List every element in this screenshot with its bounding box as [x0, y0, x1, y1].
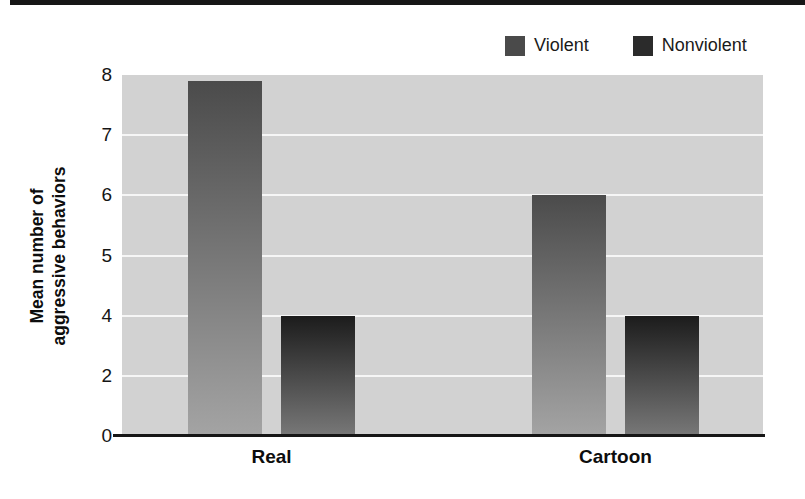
nonviolent-swatch-icon	[633, 36, 653, 56]
bar-cartoon-nonviolent	[625, 316, 699, 436]
y-axis-title-line1: Mean number of	[27, 167, 49, 346]
legend-item-nonviolent: Nonviolent	[633, 35, 747, 56]
violent-swatch-icon	[505, 36, 525, 56]
chart-legend: Violent Nonviolent	[505, 35, 747, 56]
bar-real-violent	[188, 81, 262, 436]
x-category-label-real: Real	[251, 446, 291, 468]
bar-cartoon-violent	[532, 195, 606, 436]
legend-label-violent: Violent	[534, 35, 589, 56]
y-tick-label-5: 5	[72, 245, 112, 267]
x-axis-line	[113, 434, 765, 437]
y-tick-label-0: 0	[72, 425, 112, 447]
x-category-label-cartoon: Cartoon	[579, 446, 652, 468]
top-rule-divider	[10, 0, 805, 5]
y-tick-label-6: 6	[72, 184, 112, 206]
legend-item-violent: Violent	[505, 35, 589, 56]
y-tick-label-4: 4	[72, 305, 112, 327]
figure-canvas: Violent Nonviolent Mean number of aggres…	[0, 0, 805, 499]
y-tick-label-8: 8	[72, 64, 112, 86]
y-tick-label-7: 7	[72, 124, 112, 146]
y-axis-title-line2: aggressive behaviors	[49, 167, 71, 346]
legend-label-nonviolent: Nonviolent	[662, 35, 747, 56]
y-tick-label-2: 2	[72, 365, 112, 387]
y-axis-title: Mean number of aggressive behaviors	[27, 167, 71, 346]
plot-area	[122, 75, 763, 436]
bar-real-nonviolent	[281, 316, 355, 436]
